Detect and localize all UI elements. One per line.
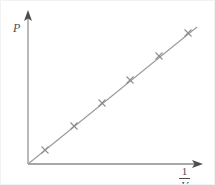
plot-canvas [1, 1, 215, 185]
data-point-marker [71, 123, 78, 130]
x-axis-label-numerator: 1 [180, 166, 190, 178]
data-point-marker [42, 147, 49, 154]
x-axis-label-denominator: V [179, 180, 190, 185]
pressure-vs-inverse-volume-figure: P 1 V [0, 0, 215, 185]
x-axis-label: 1 V [179, 166, 190, 185]
data-trend-line [28, 27, 197, 164]
y-axis-label: P [13, 22, 20, 34]
data-point-marker [99, 100, 106, 107]
